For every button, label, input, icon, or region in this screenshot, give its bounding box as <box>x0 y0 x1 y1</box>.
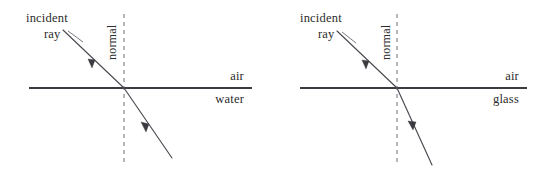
refracted-ray-arrowhead-water <box>141 122 149 132</box>
incident-ray-label-line2-water: ray <box>44 27 61 41</box>
lower-medium-label-glass: glass <box>493 92 519 106</box>
incident-ray-arrowhead-glass <box>362 60 369 69</box>
upper-medium-label-glass: air <box>505 69 519 83</box>
lower-medium-label-water: water <box>215 92 244 106</box>
incident-ray-arrowhead-water <box>88 59 95 68</box>
upper-medium-label-water: air <box>230 69 244 83</box>
panel-water: incident ray normal air water <box>26 11 252 162</box>
incident-ray-label-line1-glass: incident <box>300 11 342 25</box>
refraction-figure: incident ray normal air water incident r… <box>0 0 547 174</box>
panel-glass: incident ray normal air glass <box>300 11 527 165</box>
incident-ray-label-line1-water: incident <box>26 11 68 25</box>
normal-label-water: normal <box>105 24 119 60</box>
refracted-ray-water <box>124 88 172 158</box>
incident-ray-label-line2-glass: ray <box>318 27 335 41</box>
normal-label-glass: normal <box>379 24 393 60</box>
refracted-ray-arrowhead-glass <box>408 121 416 130</box>
refraction-diagram-svg: incident ray normal air water incident r… <box>0 0 547 174</box>
